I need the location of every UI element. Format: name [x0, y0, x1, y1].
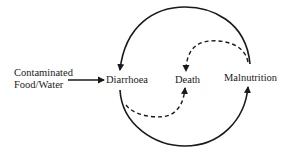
arrow-malnutrition-to-diarrhoea: [120, 7, 250, 70]
source-node-contaminated-food-water: Contaminated Food/Water: [14, 67, 73, 91]
node-death: Death: [175, 74, 200, 86]
node-diarrhoea: Diarrhoea: [106, 74, 148, 86]
node-malnutrition: Malnutrition: [224, 72, 277, 84]
source-label-line1: Contaminated: [14, 67, 73, 79]
source-label-line2: Food/Water: [14, 79, 73, 91]
arrow-malnutrition-to-death-dashed: [186, 41, 248, 71]
diarrhoea-malnutrition-cycle-diagram: Contaminated Food/Water Diarrhoea Death …: [0, 0, 295, 156]
arrow-diarrhoea-to-death-dashed: [126, 88, 185, 117]
